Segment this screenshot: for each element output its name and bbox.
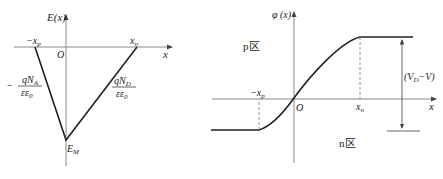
neg-xp-label: −xp xyxy=(26,35,41,48)
y-axis-label: E(x) xyxy=(46,11,66,24)
barrier-voltage-label: (VD−V) xyxy=(404,71,435,84)
left-denominator: εε0 xyxy=(21,87,33,100)
n-region-label: n区 xyxy=(339,137,356,149)
origin-label: O xyxy=(296,102,303,113)
x-axis-label: x xyxy=(428,100,434,112)
y-axis-label: φ (x) xyxy=(272,9,292,21)
pn-junction-diagrams: E(x) x O −xp xn EM − qNA εε0 qND εε0 φ (… xyxy=(0,0,443,179)
potential-curve xyxy=(211,37,413,130)
p-region-label: p区 xyxy=(243,40,260,52)
neg-xp-label: −xp xyxy=(250,87,265,100)
xn-label: xn xyxy=(355,101,364,114)
minus-sign: − xyxy=(7,80,13,91)
left-slope-formula: − qNA εε0 xyxy=(7,74,42,100)
right-denominator: εε0 xyxy=(116,88,128,101)
xn-label: xn xyxy=(129,35,138,48)
x-axis-label: x xyxy=(162,48,168,60)
right-slope-formula: qND εε0 xyxy=(112,75,136,101)
electric-field-diagram: E(x) x O −xp xn EM − qNA εε0 qND εε0 xyxy=(7,11,172,166)
potential-diagram: φ (x) x O −xp xn p区 n区 (VD−V) xyxy=(211,9,436,163)
left-numerator: qNA xyxy=(22,74,39,87)
peak-field-label: EM xyxy=(66,143,80,156)
diagram-canvas: E(x) x O −xp xn EM − qNA εε0 qND εε0 φ (… xyxy=(0,0,443,179)
right-numerator: qND xyxy=(114,75,131,88)
origin-label: O xyxy=(57,49,64,60)
